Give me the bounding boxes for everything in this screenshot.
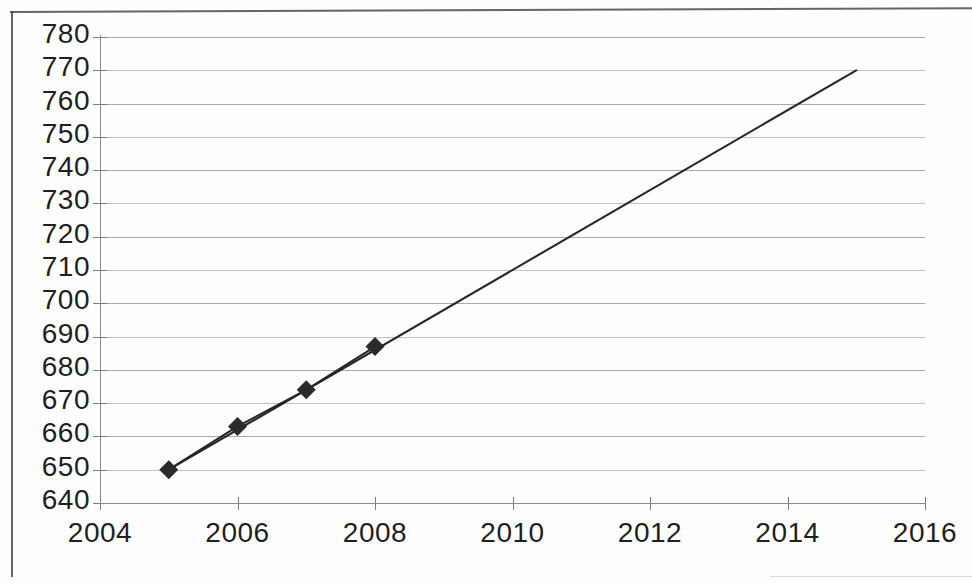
x-axis-label-2006: 2006 (205, 517, 269, 549)
gridline-y-750 (100, 137, 925, 138)
x-axis-label-2008: 2008 (343, 517, 407, 549)
y-axis-label-660: 660 (42, 417, 90, 449)
x-axis-label-2016: 2016 (893, 517, 957, 549)
y-axis-label-760: 760 (42, 85, 90, 117)
data-point-marker-2006 (228, 417, 247, 436)
gridline-y-780 (100, 37, 925, 38)
gridline-y-760 (100, 104, 925, 105)
x-axis-label-2010: 2010 (480, 517, 544, 549)
data-point-markers-group (159, 337, 384, 479)
gridline-y-740 (100, 170, 925, 171)
x-tick-2006 (238, 497, 239, 510)
gridline-y-650 (100, 470, 925, 471)
y-axis-label-750: 750 (42, 118, 90, 150)
y-axis-label-700: 700 (42, 284, 90, 316)
gridline-y-710 (100, 270, 925, 271)
y-axis-label-720: 720 (42, 218, 90, 250)
y-axis-label-690: 690 (42, 318, 90, 350)
data-series-layer (0, 0, 972, 584)
line-chart-figure: 6406506606706806907007107207307407507607… (0, 0, 972, 584)
y-axis-label-650: 650 (42, 451, 90, 483)
gridline-y-720 (100, 237, 925, 238)
series-line-observed (169, 347, 375, 470)
y-axis-label-710: 710 (42, 251, 90, 283)
gridline-y-690 (100, 337, 925, 338)
y-axis-label-640: 640 (42, 484, 90, 516)
x-axis-label-2004: 2004 (68, 517, 132, 549)
gridline-y-680 (100, 370, 925, 371)
x-tick-2004 (100, 497, 101, 510)
y-axis-line (100, 35, 101, 505)
gridline-y-700 (100, 303, 925, 304)
y-axis-label-780: 780 (42, 18, 90, 50)
y-axis-label-770: 770 (42, 51, 90, 83)
y-axis-label-730: 730 (42, 184, 90, 216)
x-tick-2016 (925, 497, 926, 510)
x-axis-label-2012: 2012 (618, 517, 682, 549)
data-point-marker-2007 (297, 380, 316, 399)
x-tick-2014 (788, 497, 789, 510)
gridline-y-670 (100, 403, 925, 404)
x-tick-2008 (375, 497, 376, 510)
gridline-y-770 (100, 70, 925, 71)
gridline-y-660 (100, 436, 925, 437)
x-tick-2012 (650, 497, 651, 510)
y-axis-label-680: 680 (42, 351, 90, 383)
data-point-marker-2008 (366, 337, 385, 356)
y-axis-label-670: 670 (42, 384, 90, 416)
gridline-y-730 (100, 203, 925, 204)
x-axis-label-2014: 2014 (755, 517, 819, 549)
x-tick-2010 (513, 497, 514, 510)
y-axis-label-740: 740 (42, 151, 90, 183)
